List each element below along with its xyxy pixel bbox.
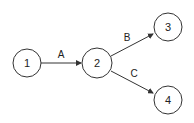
edge-a: A bbox=[41, 49, 81, 63]
node-4: 4 bbox=[154, 86, 182, 114]
node-3: 3 bbox=[154, 13, 182, 41]
node-1: 1 bbox=[13, 49, 41, 77]
edge-b: B bbox=[111, 32, 153, 56]
edge-label-a: A bbox=[58, 49, 65, 60]
edge-c: C bbox=[111, 68, 153, 93]
diagram-canvas: A B C 1 2 3 4 bbox=[0, 0, 194, 123]
node-2: 2 bbox=[82, 48, 112, 78]
edge-label-b: B bbox=[124, 32, 131, 43]
node-label-2: 2 bbox=[94, 57, 100, 69]
node-label-1: 1 bbox=[24, 57, 30, 69]
node-label-3: 3 bbox=[165, 21, 171, 33]
node-label-4: 4 bbox=[165, 94, 171, 106]
edge-label-c: C bbox=[130, 68, 137, 79]
